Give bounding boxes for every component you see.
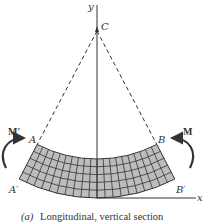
figure-caption-prefix: (a) xyxy=(21,211,34,223)
point-a-prime-label: A′ xyxy=(8,184,19,195)
moment-left-label: M′ xyxy=(8,126,20,137)
figure-caption: Longitudinal, vertical section xyxy=(40,211,164,222)
center-point-marker xyxy=(95,26,99,32)
point-b-prime-label: B′ xyxy=(175,184,186,195)
point-b-label: B xyxy=(157,134,165,145)
beam-bending-diagram: y x C A B A′ B′ M′ M (a) Longitudinal, v… xyxy=(0,0,203,224)
radius-line-ca xyxy=(37,31,97,144)
moment-arrow-left-icon xyxy=(3,138,24,168)
center-label: C xyxy=(101,21,109,32)
x-axis-label: x xyxy=(197,192,203,203)
y-axis-label: y xyxy=(87,1,94,12)
moment-arrow-right-icon xyxy=(172,138,193,168)
point-a-label: A xyxy=(28,134,36,145)
radius-line-cb xyxy=(97,31,157,144)
moment-right-label: M xyxy=(183,126,193,137)
